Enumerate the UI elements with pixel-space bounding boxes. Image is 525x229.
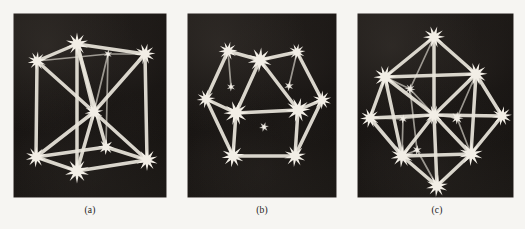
node-core — [499, 113, 506, 120]
node-core — [430, 33, 437, 40]
node-core — [230, 86, 233, 89]
rod — [410, 89, 434, 115]
rod — [402, 156, 437, 186]
rod — [476, 74, 502, 116]
node-core — [294, 106, 302, 114]
node-core — [232, 109, 240, 117]
node-core — [143, 156, 150, 163]
node-core — [408, 87, 412, 91]
rod — [434, 74, 476, 115]
node-core — [229, 152, 237, 160]
node-core — [33, 154, 40, 161]
node-core — [287, 84, 290, 87]
node-core — [142, 51, 149, 58]
node-core — [415, 148, 418, 151]
figure-panels-abc: (a) (b) (c) — [0, 0, 525, 229]
node-core — [225, 48, 231, 54]
node-core — [103, 144, 108, 149]
rod — [206, 51, 228, 99]
node-core — [467, 150, 475, 158]
node-core — [73, 40, 81, 48]
node-core — [367, 115, 374, 122]
node-core — [34, 58, 40, 64]
node-core — [398, 152, 406, 160]
rod — [434, 115, 437, 186]
caption-panel-b: (b) — [222, 205, 302, 215]
rod — [236, 60, 260, 113]
panel-a-photo — [14, 14, 166, 197]
rod — [434, 37, 476, 74]
node-core — [472, 70, 480, 78]
node-core — [381, 73, 389, 81]
caption-panel-a: (a) — [50, 205, 130, 215]
rod — [77, 44, 106, 147]
panel-b-photo — [188, 14, 336, 197]
node-core — [107, 53, 110, 56]
node-core — [291, 152, 298, 159]
node-core — [431, 112, 438, 119]
rod — [385, 74, 476, 77]
rod — [297, 52, 322, 100]
node-core — [262, 125, 265, 128]
rod — [77, 160, 147, 171]
rod — [36, 61, 37, 157]
rod — [434, 115, 471, 154]
node-core — [91, 109, 97, 115]
node-core — [433, 182, 440, 189]
panel-c-model-drawing — [358, 14, 513, 197]
node-core — [203, 96, 209, 102]
node-core — [73, 167, 81, 175]
caption-panel-c: (c) — [397, 205, 477, 215]
rod — [145, 54, 147, 160]
panel-a-model-drawing — [14, 14, 166, 197]
node-core — [256, 56, 264, 64]
node-core — [455, 116, 459, 120]
node-core — [319, 97, 325, 103]
panel-b-model-drawing — [188, 14, 336, 197]
node-core — [402, 118, 405, 121]
rod — [77, 112, 94, 171]
panel-c-photo — [358, 14, 513, 197]
node-core — [294, 49, 300, 55]
